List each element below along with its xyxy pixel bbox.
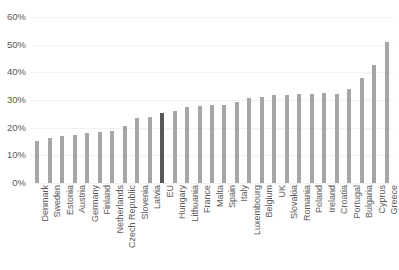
x-axis-tick-label: Slovakia xyxy=(290,185,299,219)
x-axis-tick-label: Bulgaria xyxy=(365,185,374,218)
bar-slot xyxy=(306,17,318,183)
bar-germany[interactable] xyxy=(85,133,89,183)
bar-bulgaria[interactable] xyxy=(360,78,364,183)
bar-slot xyxy=(318,17,330,183)
bar-slot xyxy=(331,17,343,183)
x-axis-tick-label: Latvia xyxy=(153,185,162,209)
x-axis-tick-label: Estonia xyxy=(66,185,75,215)
bars-layer xyxy=(31,17,393,183)
bar-slot xyxy=(118,17,130,183)
bar-netherlands[interactable] xyxy=(110,131,114,183)
bar-slot xyxy=(81,17,93,183)
bar-luxembourg[interactable] xyxy=(247,98,251,183)
bar-slot xyxy=(206,17,218,183)
x-axis-tick-label: Czech Republic xyxy=(128,185,137,248)
bar-czech-republic[interactable] xyxy=(123,126,127,183)
bar-malta[interactable] xyxy=(210,105,214,183)
x-axis-tick-label: EU xyxy=(166,185,175,198)
bar-cyprus[interactable] xyxy=(372,65,376,183)
y-axis-tick-label: 30% xyxy=(7,95,26,105)
x-axis-tick-label: UK xyxy=(278,185,287,198)
bar-slovakia[interactable] xyxy=(285,95,289,183)
bar-slot xyxy=(31,17,43,183)
x-axis-tick-label: Ireland xyxy=(328,185,337,213)
x-axis-tick-label: Sweden xyxy=(53,185,62,218)
bar-slot xyxy=(106,17,118,183)
bar-slot xyxy=(243,17,255,183)
bar-slot xyxy=(268,17,280,183)
bar-slot xyxy=(218,17,230,183)
bar-slot xyxy=(343,17,355,183)
x-axis-tick-label: Netherlands xyxy=(116,185,125,234)
bar-france[interactable] xyxy=(198,106,202,183)
bar-slot xyxy=(68,17,80,183)
x-axis-tick-label: Denmark xyxy=(41,185,50,222)
bar-poland[interactable] xyxy=(310,94,314,183)
bar-estonia[interactable] xyxy=(60,136,64,183)
x-axis-tick-label: Spain xyxy=(228,185,237,208)
bar-austria[interactable] xyxy=(73,135,77,183)
bar-spain[interactable] xyxy=(222,105,226,183)
x-axis-tick-label: Greece xyxy=(390,185,399,215)
x-axis-tick-label: Cyprus xyxy=(378,185,387,214)
bar-uk[interactable] xyxy=(272,95,276,183)
y-axis-tick-label: 0% xyxy=(12,178,26,188)
x-axis-tick-label: Hungary xyxy=(178,185,187,219)
x-axis: DenmarkSwedenEstoniaAustriaGermanyFinlan… xyxy=(31,185,393,270)
bar-slot xyxy=(131,17,143,183)
x-axis-tick-label: Luxembourg xyxy=(253,185,262,235)
x-axis-tick-label: France xyxy=(203,185,212,213)
bar-latvia[interactable] xyxy=(148,117,152,183)
bar-slot xyxy=(193,17,205,183)
x-axis-tick-label: Finland xyxy=(103,185,112,215)
x-axis-tick-label: Malta xyxy=(216,185,225,207)
bar-slot xyxy=(56,17,68,183)
x-axis-tick-label: Romania xyxy=(303,185,312,221)
bar-croatia[interactable] xyxy=(335,94,339,183)
bar-slot xyxy=(368,17,380,183)
bar-denmark[interactable] xyxy=(35,141,39,183)
bar-slot xyxy=(293,17,305,183)
x-axis-tick-label: Austria xyxy=(78,185,87,213)
bar-slot xyxy=(381,17,393,183)
bar-slot xyxy=(256,17,268,183)
x-axis-tick-label: Poland xyxy=(315,185,324,213)
x-axis-tick-label: Italy xyxy=(240,185,249,202)
bar-slot xyxy=(168,17,180,183)
bar-slot xyxy=(181,17,193,183)
y-axis-tick-label: 40% xyxy=(7,68,26,78)
bar-hungary[interactable] xyxy=(173,111,177,183)
bar-slovenia[interactable] xyxy=(135,118,139,183)
x-axis-tick-label: Croatia xyxy=(340,185,349,214)
bar-slot xyxy=(231,17,243,183)
bar-slot xyxy=(356,17,368,183)
bar-sweden[interactable] xyxy=(48,138,52,183)
bar-ireland[interactable] xyxy=(322,93,326,183)
bar-romania[interactable] xyxy=(297,94,301,183)
bar-finland[interactable] xyxy=(98,132,102,183)
x-axis-tick-label: Germany xyxy=(91,185,100,222)
bar-portugal[interactable] xyxy=(347,89,351,183)
bar-greece[interactable] xyxy=(385,42,389,183)
bar-slot xyxy=(43,17,55,183)
x-axis-tick-label: Belgium xyxy=(265,185,274,218)
bar-italy[interactable] xyxy=(235,102,239,183)
x-axis-tick-label: Lithuania xyxy=(191,185,200,222)
y-axis-tick-label: 10% xyxy=(7,151,26,161)
y-axis-tick-label: 60% xyxy=(7,12,26,22)
bar-lithuania[interactable] xyxy=(185,107,189,183)
bar-slot xyxy=(93,17,105,183)
bar-slot xyxy=(281,17,293,183)
x-axis-tick-label: Portugal xyxy=(353,185,362,219)
x-axis-tick-label: Slovenia xyxy=(141,185,150,220)
y-axis-tick-label: 50% xyxy=(7,40,26,50)
gridline xyxy=(31,183,393,184)
bar-eu[interactable] xyxy=(160,113,164,183)
y-axis-tick-label: 20% xyxy=(7,123,26,133)
bar-belgium[interactable] xyxy=(260,97,264,183)
bar-slot xyxy=(156,17,168,183)
y-axis: 0%10%20%30%40%50%60% xyxy=(0,0,29,190)
bar-slot xyxy=(143,17,155,183)
